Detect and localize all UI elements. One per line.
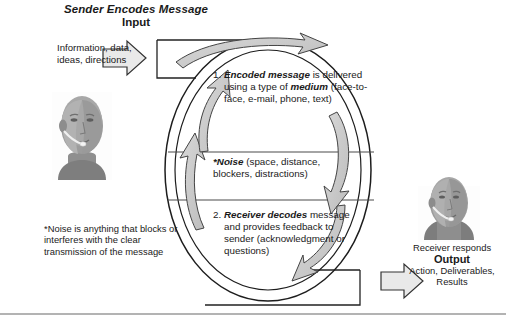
input-description: Information, data, ideas, directions — [57, 42, 137, 65]
step-2-number: 2. — [213, 209, 221, 220]
page-title: Sender Encodes Message — [46, 2, 226, 16]
step-1-lead2: medium — [290, 81, 328, 92]
step-1-lead: Encoded message — [224, 69, 310, 80]
step-2-lead: Receiver decodes — [224, 209, 307, 220]
step-1-text: 1. Encoded message is delivered using a … — [213, 69, 369, 105]
input-label: Input — [46, 15, 226, 29]
sender-head-photo — [52, 92, 112, 180]
receiver-head-photo — [418, 177, 480, 242]
output-line1: Receiver responds — [398, 242, 506, 253]
diagram-canvas: Sender Encodes Message Input Information… — [0, 0, 506, 327]
step-1-number: 1. — [213, 69, 221, 80]
noise-text: *Noise (space, distance, blockers, distr… — [213, 156, 333, 180]
step-2-text: 2. Receiver decodes message and provides… — [213, 209, 364, 257]
noise-footnote: *Noise is anything that blocks or interf… — [44, 223, 194, 257]
output-items: Action, Deliverables, Results — [398, 265, 506, 288]
noise-lead: *Noise — [213, 156, 244, 167]
